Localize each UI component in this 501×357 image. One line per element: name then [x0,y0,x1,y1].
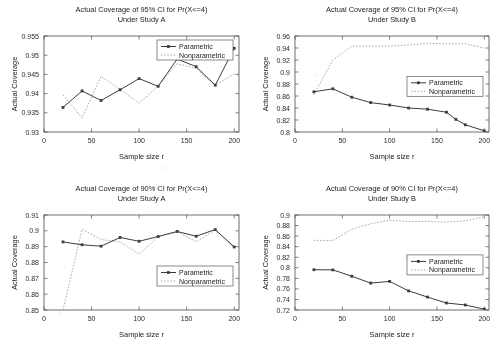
legend-marker-parametric [167,45,170,48]
data-point-marker [454,118,457,121]
legend: ParametricNonparametric [157,266,233,286]
data-point-marker [445,302,448,305]
data-point-marker [157,85,160,88]
chart-panel-bottom-right: Actual Coverage of 90% CI for Pr(X<=4)Un… [251,179,501,357]
y-tick-label: 0.72 [276,307,290,314]
y-tick-label: 0.85 [25,307,39,314]
y-tick-label: 0.955 [21,33,39,40]
data-point-marker [464,123,467,126]
data-point-marker [119,88,122,91]
x-tick-label: 100 [133,315,145,322]
y-tick-label: 0.78 [276,275,290,282]
chart-panel-top-left: Actual Coverage of 95% CI for Pr(X<=4)Un… [0,0,251,179]
legend-label-parametric: Parametric [179,43,213,50]
x-tick-label: 150 [181,315,193,322]
y-tick-label: 0.86 [276,233,290,240]
x-tick-label: 200 [228,315,240,322]
x-tick-label: 100 [133,137,145,144]
data-point-marker [119,236,122,239]
legend-marker-parametric [417,260,420,263]
data-point-marker [100,245,103,248]
legend: ParametricNonparametric [407,76,483,96]
x-tick-label: 100 [384,137,396,144]
data-point-marker [233,246,236,249]
chart-top-left: Actual Coverage of 95% CI for Pr(X<=4)Un… [0,0,251,179]
chart-title: Actual Coverage of 90% CI for Pr(X<=4) [326,184,458,193]
x-axis-label: Sample size r [119,330,164,339]
x-tick-label: 150 [431,315,443,322]
legend: ParametricNonparametric [157,40,233,60]
chart-panel-bottom-left: Actual Coverage of 90% CI for Pr(X<=4)Un… [0,179,251,357]
chart-panel-top-right: Actual Coverage of 95% CI for Pr(X<=4)Un… [251,0,501,179]
data-point-marker [331,87,334,90]
x-axis-label: Sample size r [370,330,415,339]
data-point-marker [176,230,179,233]
data-point-marker [195,65,198,68]
legend-label-parametric: Parametric [429,258,463,265]
y-tick-label: 0.95 [25,52,39,59]
data-point-marker [81,90,84,93]
data-point-marker [464,304,467,307]
y-tick-label: 0.94 [276,45,290,52]
data-point-marker [214,84,217,87]
data-point-marker [195,235,198,238]
x-tick-label: 100 [384,315,396,322]
x-tick-label: 50 [88,315,96,322]
y-tick-label: 0.88 [276,222,290,229]
series-line-parametric [314,270,484,309]
y-tick-label: 0.86 [25,291,39,298]
chart-bottom-left: Actual Coverage of 90% CI for Pr(X<=4)Un… [0,179,251,357]
x-tick-label: 200 [228,137,240,144]
y-tick-label: 0.8 [280,264,290,271]
x-tick-label: 50 [88,137,96,144]
y-tick-label: 0.84 [276,105,290,112]
y-tick-label: 0.9 [29,227,39,234]
y-tick-label: 0.93 [25,129,39,136]
data-point-marker [350,96,353,99]
series-line-nonparametric [314,217,484,241]
y-tick-label: 0.9 [280,212,290,219]
y-tick-label: 0.91 [25,212,39,219]
x-axis-label: Sample size r [370,152,415,161]
data-point-marker [138,240,141,243]
y-axis-label: Actual Coverage [10,235,19,290]
legend-label-parametric: Parametric [179,269,213,276]
data-point-marker [313,268,316,271]
legend-label-nonparametric: Nonparametric [179,52,225,60]
data-point-marker [426,108,429,111]
figure-grid: Actual Coverage of 95% CI for Pr(X<=4)Un… [0,0,501,357]
data-point-marker [81,243,84,246]
data-point-marker [407,107,410,110]
chart-subtitle: Under Study A [118,15,166,24]
data-point-marker [313,90,316,93]
y-tick-label: 0.9 [280,69,290,76]
chart-title: Actual Coverage of 95% CI for Pr(X<=4) [76,5,208,14]
legend-label-nonparametric: Nonparametric [429,88,475,96]
y-tick-label: 0.89 [25,243,39,250]
x-tick-label: 0 [42,315,46,322]
legend-marker-parametric [417,81,420,84]
data-point-marker [445,111,448,114]
x-tick-label: 200 [478,137,490,144]
data-point-marker [62,241,65,244]
x-tick-label: 50 [338,315,346,322]
data-point-marker [157,235,160,238]
y-tick-label: 0.84 [276,243,290,250]
data-point-marker [138,77,141,80]
legend-label-nonparametric: Nonparametric [179,278,225,286]
legend-label-nonparametric: Nonparametric [429,266,475,274]
y-tick-label: 0.74 [276,296,290,303]
data-point-marker [62,106,65,109]
y-tick-label: 0.945 [21,71,39,78]
chart-subtitle: Under Study B [368,194,416,203]
data-point-marker [331,268,334,271]
chart-top-right: Actual Coverage of 95% CI for Pr(X<=4)Un… [251,0,501,179]
chart-subtitle: Under Study B [368,15,416,24]
x-tick-label: 0 [293,315,297,322]
x-tick-label: 200 [478,315,490,322]
y-axis-label: Actual Coverage [261,235,270,290]
data-point-marker [483,129,486,132]
y-tick-label: 0.96 [276,33,290,40]
y-axis-label: Actual Coverage [10,57,19,112]
chart-bottom-right: Actual Coverage of 90% CI for Pr(X<=4)Un… [251,179,501,357]
